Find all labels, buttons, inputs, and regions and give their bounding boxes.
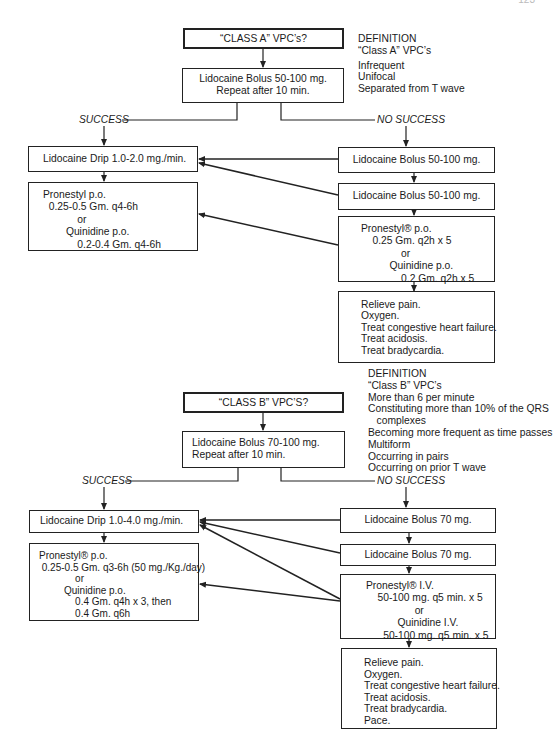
- box-line: Quinidine p.o.: [361, 260, 494, 272]
- connector-b-success: [125, 467, 238, 481]
- box-line: Pronestyl® p.o.: [361, 223, 494, 235]
- definition-criterion: Becoming more frequent as time passes: [368, 427, 552, 439]
- box-line: 50-100 mg. q5 min. x 5: [366, 630, 495, 642]
- box-line: Oxygen.: [361, 310, 494, 321]
- box-line: 0.4 Gm. q6h: [39, 608, 198, 620]
- box-line: Repeat after 10 min.: [183, 85, 343, 97]
- definition-criterion: Constituting more than 10% of the QRS: [368, 403, 552, 415]
- class-b-no-success-label: NO SUCCESS: [377, 475, 445, 486]
- class-a-initial-bolus-box: Lidocaine Bolus 50-100 mg. Repeat after …: [182, 68, 344, 103]
- box-line: Treat bradycardia.: [364, 703, 496, 715]
- definition-criterion: More than 6 per minute: [368, 392, 552, 404]
- class-b-iv-box: Pronestyl® I.V. 50-100 mg. q5 min. x 5 o…: [340, 574, 496, 639]
- class-b-bolus-1-box: Lidocaine Bolus 70 mg.: [340, 508, 496, 533]
- box-line: 0.4 Gm. q4h x 3, then: [39, 596, 198, 608]
- box-line: 0.25-0.5 Gm. q4-6h: [43, 201, 197, 213]
- definition-criterion: Multiform: [368, 439, 552, 451]
- box-line: Lidocaine Bolus 50-100 mg.: [339, 154, 494, 166]
- box-line: Lidocaine Bolus 70 mg.: [341, 514, 495, 526]
- class-b-definition: DEFINITION “Class B” VPC’s More than 6 p…: [368, 368, 552, 474]
- definition-criterion: Occurring in pairs: [368, 451, 552, 463]
- class-b-drip-box: Lidocaine Drip 1.0-4.0 mg./min.: [29, 510, 199, 533]
- box-line: or: [366, 605, 495, 617]
- box-line: 0.2-0.4 Gm. q4-6h: [43, 239, 197, 251]
- box-line: Lidocaine Bolus 70-100 mg.: [192, 437, 344, 449]
- box-line: 0.2 Gm. q2h x 5: [361, 273, 494, 285]
- definition-criterion: Unifocal: [358, 71, 465, 83]
- class-a-definition: DEFINITION “Class A” VPC’s Infrequent Un…: [358, 33, 465, 95]
- box-line: or: [39, 573, 198, 585]
- definition-criterion: Infrequent: [358, 60, 465, 72]
- box-line: Lidocaine Bolus 70 mg.: [341, 549, 495, 561]
- box-line: 0.25-0.5 Gm. q3-6h (50 mg./Kg./day): [39, 562, 198, 574]
- box-line: or: [361, 248, 494, 260]
- connector-a-no-success: [281, 102, 375, 120]
- class-b-bolus-2-box: Lidocaine Bolus 70 mg.: [340, 544, 496, 566]
- box-line: Repeat after 10 min.: [192, 449, 344, 461]
- box-line: Quinidine p.o.: [39, 585, 198, 597]
- class-b-oral-box: Pronestyl® p.o. 0.25-0.5 Gm. q3-6h (50 m…: [29, 543, 199, 621]
- class-b-success-label: SUCCESS: [82, 475, 132, 486]
- box-line: Relieve pain.: [364, 657, 496, 669]
- box-line: Treat acidosis.: [361, 333, 494, 344]
- class-a-drip-box: Lidocaine Drip 1.0-2.0 mg./min.: [28, 146, 198, 172]
- box-line: Lidocaine Bolus 50-100 mg.: [339, 190, 494, 202]
- class-a-title-box: “CLASS A” VPC’s?: [183, 28, 344, 49]
- definition-subheading: “Class B” VPC’s: [368, 380, 552, 392]
- box-line: Lidocaine Drip 1.0-4.0 mg./min.: [40, 515, 198, 527]
- box-line: Lidocaine Bolus 50-100 mg.: [183, 73, 343, 85]
- box-line: Treat acidosis.: [364, 692, 496, 704]
- class-b-title-box: “CLASS B” VPC’S?: [183, 392, 344, 413]
- class-b-title: “CLASS B” VPC’S?: [219, 397, 308, 408]
- class-a-oral-box: Pronestyl p.o. 0.25-0.5 Gm. q4-6h or Qui…: [28, 182, 198, 251]
- definition-heading: DEFINITION: [368, 368, 552, 380]
- box-line: Pronestyl p.o.: [43, 189, 197, 201]
- class-a-supportive-box: Relieve pain. Oxygen. Treat congestive h…: [338, 291, 495, 363]
- box-line: Quinidine I.V.: [366, 617, 495, 629]
- box-line: Pronestyl® p.o.: [39, 550, 198, 562]
- class-a-title: “CLASS A” VPC’s?: [220, 33, 307, 44]
- class-b-initial-bolus-box: Lidocaine Bolus 70-100 mg. Repeat after …: [182, 431, 345, 468]
- box-line: Quinidine p.o.: [43, 226, 197, 238]
- class-a-bolus-1-box: Lidocaine Bolus 50-100 mg.: [338, 147, 495, 173]
- definition-criterion: complexes: [368, 415, 552, 427]
- box-line: 0.25 Gm. q2h x 5: [361, 235, 494, 247]
- box-line: 50-100 mg. q5 min. x 5: [366, 592, 495, 604]
- box-line: Treat congestive heart failure.: [364, 680, 496, 692]
- box-line: or: [43, 214, 197, 226]
- class-a-bolus-2-box: Lidocaine Bolus 50-100 mg.: [338, 183, 495, 210]
- class-a-oral-no-success-box: Pronestyl® p.o. 0.25 Gm. q2h x 5 or Quin…: [338, 216, 495, 282]
- box-line: Relieve pain.: [361, 299, 494, 310]
- class-b-supportive-box: Relieve pain. Oxygen. Treat congestive h…: [341, 648, 497, 729]
- box-line: Lidocaine Drip 1.0-2.0 mg./min.: [43, 153, 197, 165]
- connector-b-no-success: [281, 467, 375, 481]
- box-line: Treat bradycardia.: [361, 345, 494, 356]
- connector-a-success: [122, 102, 237, 120]
- definition-subheading: “Class A” VPC’s: [358, 45, 465, 57]
- box-line: Treat congestive heart failure.: [361, 322, 494, 333]
- box-line: Oxygen.: [364, 669, 496, 681]
- box-line: Pronestyl® I.V.: [366, 580, 495, 592]
- class-a-success-label: SUCCESS: [79, 114, 129, 125]
- class-a-no-success-label: NO SUCCESS: [377, 114, 445, 125]
- definition-criterion: Separated from T wave: [358, 83, 465, 95]
- box-line: Pace.: [364, 715, 496, 727]
- definition-heading: DEFINITION: [358, 33, 465, 45]
- definition-criterion: Occurring on prior T wave: [368, 462, 552, 474]
